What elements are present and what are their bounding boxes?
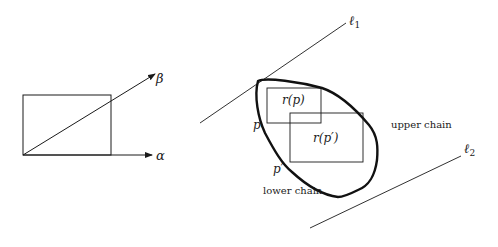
left-figure: α β xyxy=(23,71,165,163)
bounding-rectangle xyxy=(23,95,111,155)
beta-axis-label: β xyxy=(155,71,164,86)
line-l2-label: ℓ2 xyxy=(464,141,475,158)
upper-chain-label: upper chain xyxy=(391,119,452,130)
right-figure: ℓ1 ℓ2 r(p) r(p′) p p′ upper chain lower … xyxy=(200,13,475,228)
alpha-axis-label: α xyxy=(156,148,165,163)
rect-r-p-prime-label: r(p′) xyxy=(313,131,339,145)
point-p-prime-label: p′ xyxy=(273,162,284,176)
point-p-label: p xyxy=(253,118,261,132)
diagram-canvas: α β ℓ1 ℓ2 r(p) r(p′) p p′ upper chain lo… xyxy=(0,0,498,247)
lower-chain-label: lower chain xyxy=(263,185,323,196)
beta-axis-arrow xyxy=(23,74,155,155)
tangent-line-l2 xyxy=(310,156,461,228)
line-l1-label: ℓ1 xyxy=(349,13,360,30)
rect-r-p-label: r(p) xyxy=(282,93,305,107)
tangent-line-l1 xyxy=(200,23,346,123)
